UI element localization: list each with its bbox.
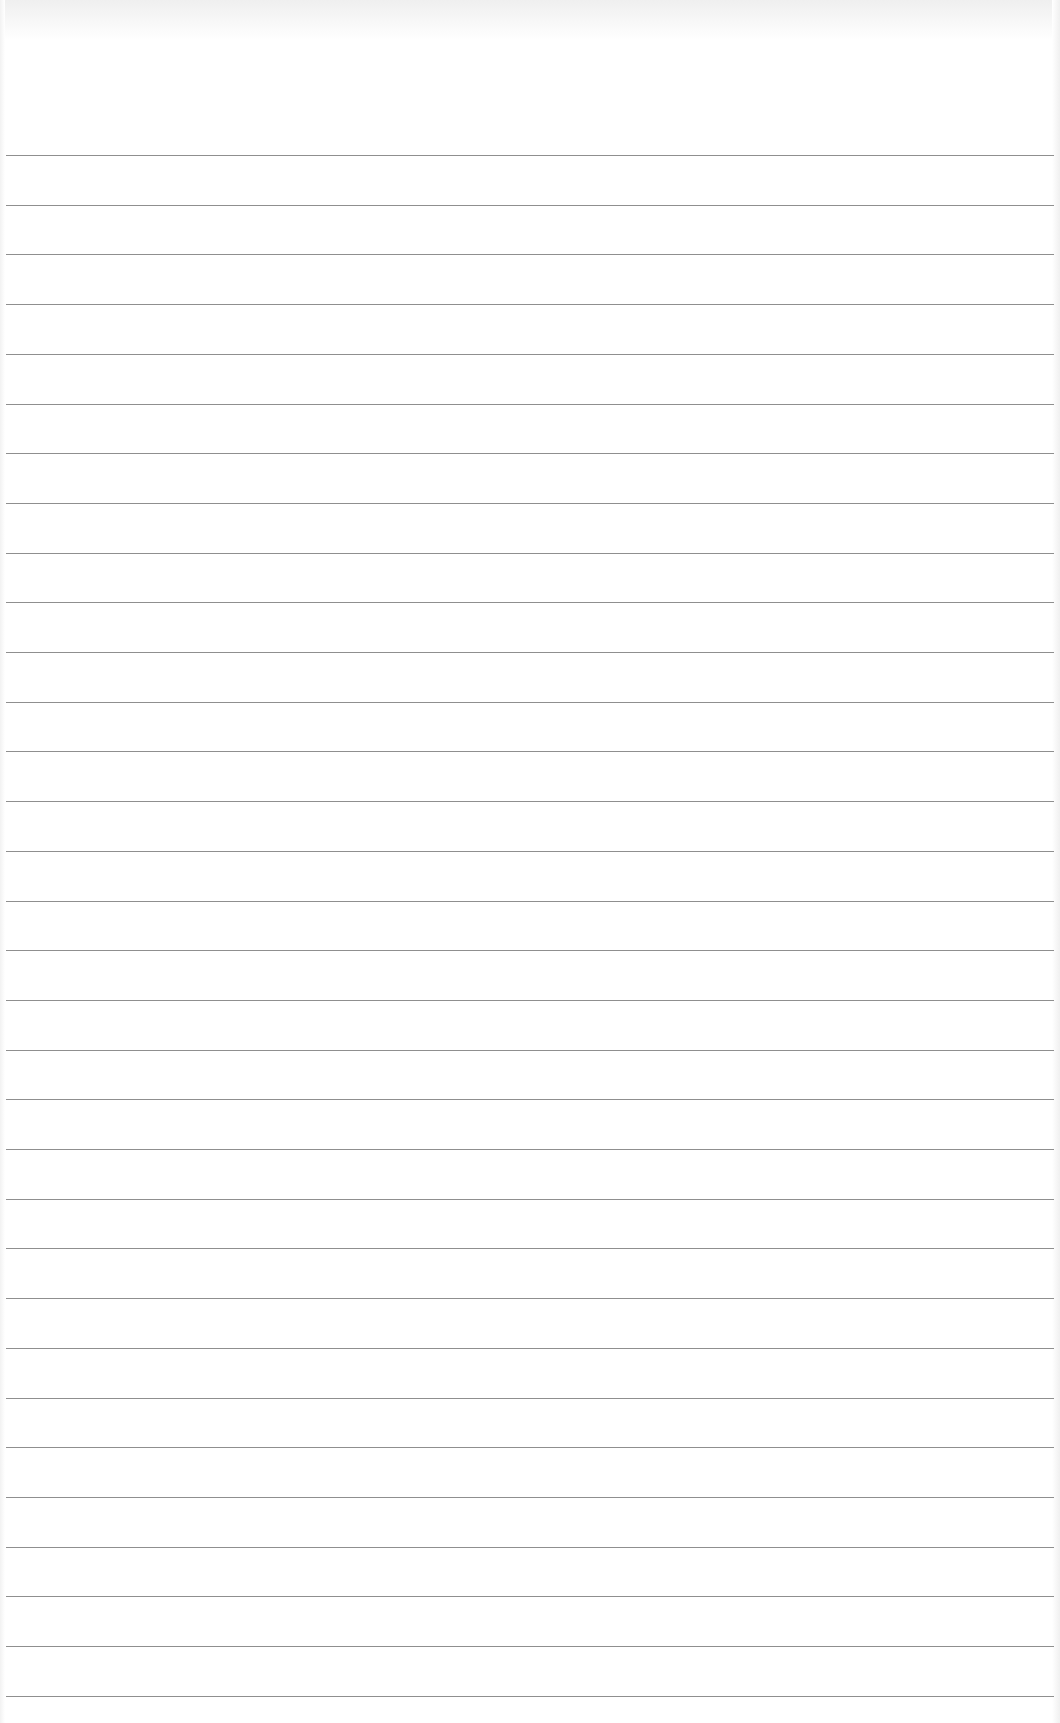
ruled-line xyxy=(6,404,1054,405)
ruled-line xyxy=(6,503,1054,504)
ruled-line xyxy=(6,751,1054,752)
ruled-line xyxy=(6,453,1054,454)
paper-top-margin xyxy=(0,0,1060,40)
paper-right-edge xyxy=(1052,0,1060,1723)
ruled-line xyxy=(6,254,1054,255)
ruled-line xyxy=(6,1099,1054,1100)
ruled-line xyxy=(6,205,1054,206)
ruled-line xyxy=(6,851,1054,852)
ruled-line xyxy=(6,1000,1054,1001)
ruled-line xyxy=(6,801,1054,802)
ruled-line xyxy=(6,1696,1054,1697)
ruled-line xyxy=(6,1497,1054,1498)
ruled-line xyxy=(6,1248,1054,1249)
ruled-line xyxy=(6,1298,1054,1299)
ruled-line xyxy=(6,1050,1054,1051)
ruled-line xyxy=(6,1348,1054,1349)
ruled-line xyxy=(6,652,1054,653)
ruled-line xyxy=(6,1149,1054,1150)
ruled-line xyxy=(6,901,1054,902)
ruled-line xyxy=(6,155,1054,156)
ruled-line xyxy=(6,1447,1054,1448)
ruled-line xyxy=(6,1547,1054,1548)
ruled-line xyxy=(6,1398,1054,1399)
ruled-line xyxy=(6,354,1054,355)
ruled-line xyxy=(6,1199,1054,1200)
ruled-line xyxy=(6,1596,1054,1597)
ruled-line xyxy=(6,702,1054,703)
ruled-line xyxy=(6,950,1054,951)
ruled-line xyxy=(6,553,1054,554)
ruled-line xyxy=(6,602,1054,603)
paper-left-edge xyxy=(0,0,5,1723)
ruled-line xyxy=(6,304,1054,305)
ruled-line xyxy=(6,1646,1054,1647)
